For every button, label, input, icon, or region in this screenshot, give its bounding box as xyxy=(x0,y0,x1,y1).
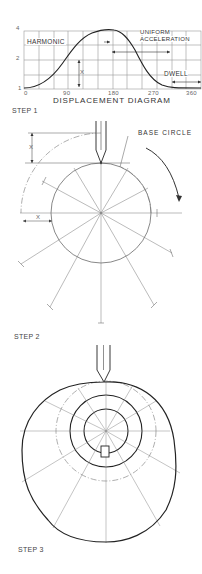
x-tick-0: 0 xyxy=(24,90,28,96)
dwell-label: DWELL xyxy=(164,70,188,77)
y-tick-4: 4 xyxy=(16,25,20,31)
step1-x-left-label: X xyxy=(36,214,40,220)
uniform-label-line2: ACCELERATION xyxy=(140,36,190,42)
rotation-arrow xyxy=(146,148,179,198)
cam-construction-drawing xyxy=(0,0,202,574)
diagram-title: DISPLACEMENT DIAGRAM xyxy=(53,96,171,105)
step3-label: STEP 3 xyxy=(18,546,44,553)
step3-drawing xyxy=(20,345,180,543)
x-dimension-label: X xyxy=(80,69,84,75)
y-tick-2: 2 xyxy=(16,55,20,61)
step1-drawing xyxy=(18,121,182,323)
step1-label: STEP 1 xyxy=(12,107,38,114)
keyway xyxy=(101,446,109,457)
step1-x-top-label: X xyxy=(29,144,33,150)
x-tick-360: 360 xyxy=(186,90,197,96)
step2-label: STEP 2 xyxy=(14,333,40,340)
base-circle-label: BASE CIRCLE xyxy=(138,129,192,136)
harmonic-label: HARMONIC xyxy=(26,38,66,45)
cam-profile xyxy=(22,382,176,542)
y-tick-1: 1 xyxy=(18,85,22,91)
radial-lines xyxy=(20,163,182,323)
uniform-label-line1: UNIFORM xyxy=(140,29,170,35)
